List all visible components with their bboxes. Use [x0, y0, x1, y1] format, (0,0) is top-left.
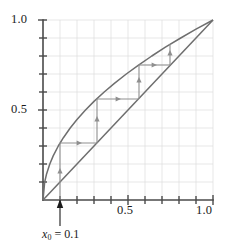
- y-axis-label-0.5: 0.5: [11, 102, 27, 117]
- cobweb-plot: [0, 0, 228, 248]
- y-axis-label-1.0: 1.0: [11, 12, 27, 27]
- x0-annotation: x0 = 0.1: [42, 227, 79, 242]
- x-axis-label-0.5: 0.5: [117, 203, 133, 218]
- x0-annotation-subscript: 0: [47, 233, 51, 242]
- x0-annotation-value: = 0.1: [55, 227, 80, 241]
- x-axis-label-1.0: 1.0: [196, 203, 212, 218]
